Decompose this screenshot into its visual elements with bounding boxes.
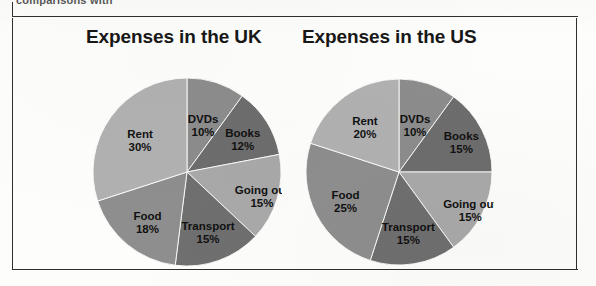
chart-title-uk: Expenses in the UK xyxy=(86,26,262,48)
frame-left-rule xyxy=(12,18,13,270)
pie-label-name: Food xyxy=(331,189,359,201)
pie-label-value: 15% xyxy=(397,234,420,246)
pie-label-value: 15% xyxy=(250,197,273,209)
pie-label-value: 10% xyxy=(404,126,427,138)
pie-svg-us: DVDs10%Books15%Going out15%Transport15%F… xyxy=(304,77,494,267)
pie-label-name: Books xyxy=(444,130,479,142)
pie-label-value: 18% xyxy=(136,223,159,235)
pie-label-value: 10% xyxy=(192,126,215,138)
frame-right-rule xyxy=(576,18,577,270)
chart-title-us: Expenses in the US xyxy=(302,26,477,48)
pie-label-name: DVDs xyxy=(400,113,431,125)
frame-top-rule xyxy=(12,16,578,17)
pie-svg-uk: DVDs10%Books12%Going out15%Transport15%F… xyxy=(92,77,282,267)
frame-top-stub xyxy=(12,2,13,17)
pie-label-value: 20% xyxy=(353,128,376,140)
pie-chart-uk: DVDs10%Books12%Going out15%Transport15%F… xyxy=(92,77,282,267)
pie-label-rent: Rent20% xyxy=(352,115,378,140)
pie-label-name: DVDs xyxy=(188,113,219,125)
pie-label-value: 12% xyxy=(231,140,254,152)
pie-chart-us: DVDs10%Books15%Going out15%Transport15%F… xyxy=(304,77,494,267)
pie-label-food: Food25% xyxy=(331,189,359,214)
scanned-page: comparisons with Expenses in the UK Expe… xyxy=(0,0,596,286)
pie-label-rent: Rent30% xyxy=(127,128,153,153)
pie-label-name: Going out xyxy=(235,184,282,196)
pie-label-name: Rent xyxy=(127,128,153,140)
frame-bottom-rule xyxy=(12,269,578,270)
pie-label-dvds: DVDs10% xyxy=(400,113,431,138)
pie-label-value: 15% xyxy=(196,233,219,245)
pie-label-dvds: DVDs10% xyxy=(188,113,219,138)
pie-label-name: Transport xyxy=(382,221,435,233)
cropped-header-text-label: comparisons with xyxy=(16,0,216,6)
pie-label-name: Books xyxy=(225,127,260,139)
pie-label-value: 15% xyxy=(450,143,473,155)
pie-label-name: Food xyxy=(133,210,161,222)
pie-label-value: 30% xyxy=(129,141,152,153)
pie-label-name: Transport xyxy=(181,220,234,232)
pie-label-name: Going out xyxy=(443,198,494,210)
pie-label-value: 25% xyxy=(334,202,357,214)
pie-label-name: Rent xyxy=(352,115,378,127)
cropped-header-text: comparisons with xyxy=(16,0,216,6)
pie-label-value: 15% xyxy=(459,211,482,223)
pie-label-food: Food18% xyxy=(133,210,161,235)
